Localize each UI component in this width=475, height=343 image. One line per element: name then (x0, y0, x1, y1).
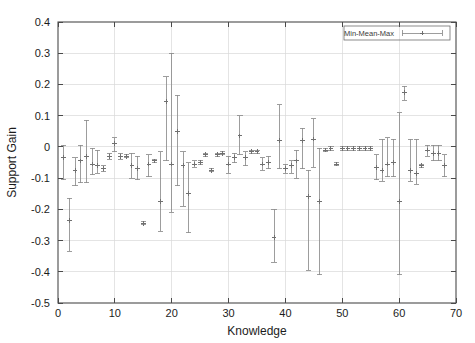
data-point-errorbar (118, 153, 123, 159)
data-point-errorbar (209, 168, 214, 173)
data-point-errorbar (84, 120, 89, 182)
support-gain-scatter-chart: 010203040506070 0.40.30.20.10-0.1-0.2-0.… (0, 0, 475, 343)
y-tick-labels: 0.40.30.20.10-0.1-0.2-0.3-0.4-0.5 (31, 16, 50, 309)
legend-label: Min-Mean-Max (344, 29, 394, 38)
plot-border (58, 22, 456, 303)
legend: Min-Mean-Max (344, 26, 450, 40)
x-tick-label: 0 (55, 307, 61, 319)
y-tick-label: 0.3 (35, 47, 50, 59)
data-point-errorbar (294, 150, 299, 178)
data-point-errorbar (391, 139, 396, 176)
data-point-errorbar (90, 148, 95, 175)
data-point-errorbar (397, 113, 402, 275)
data-point-errorbar (254, 149, 259, 154)
data-point-errorbar (442, 155, 447, 177)
data-point-errorbar (289, 161, 294, 173)
data-point-errorbar (67, 198, 72, 251)
data-point-errorbar (129, 153, 134, 178)
axis-ticks (58, 22, 456, 303)
data-point-errorbar (317, 148, 322, 274)
grid-lines (58, 22, 456, 303)
x-tick-label: 30 (222, 307, 234, 319)
data-point-errorbar (78, 145, 83, 182)
data-point-errorbar (124, 154, 129, 159)
data-point-errorbar (408, 139, 413, 181)
data-point-errorbar (95, 150, 100, 173)
y-tick-label: -0.1 (31, 172, 50, 184)
data-point-errorbar (357, 146, 362, 151)
data-point-errorbar (237, 116, 242, 155)
y-tick-label: 0.1 (35, 110, 50, 122)
data-point-errorbar (175, 95, 180, 186)
data-point-errorbar (180, 152, 185, 207)
data-point-errorbar (72, 158, 77, 186)
data-point-errorbar (226, 156, 231, 173)
x-tick-label: 40 (279, 307, 291, 319)
data-point-errorbar (192, 161, 197, 167)
data-point-errorbar (249, 149, 254, 154)
data-point-errorbar (198, 160, 203, 165)
data-series-min-mean-max (61, 53, 447, 275)
x-axis-title: Knowledge (227, 324, 287, 338)
data-point-errorbar (283, 164, 288, 173)
data-point-errorbar (362, 146, 367, 151)
data-point-errorbar (419, 163, 424, 168)
data-point-errorbar (203, 152, 208, 157)
data-point-errorbar (101, 166, 106, 172)
data-point-errorbar (311, 119, 316, 167)
data-point-errorbar (345, 146, 350, 151)
data-point-errorbar (328, 146, 333, 151)
data-point-errorbar (107, 153, 112, 159)
data-point-errorbar (186, 163, 191, 233)
data-point-errorbar (300, 128, 305, 169)
y-tick-label: -0.5 (31, 297, 50, 309)
data-point-errorbar (260, 158, 265, 170)
data-point-errorbar (323, 148, 328, 153)
y-axis-title: Support Gain (5, 127, 19, 198)
data-point-errorbar (169, 53, 174, 212)
data-point-errorbar (414, 139, 419, 184)
data-point-errorbar (158, 152, 163, 232)
x-tick-label: 10 (109, 307, 121, 319)
data-point-errorbar (271, 209, 276, 262)
data-point-errorbar (402, 86, 407, 100)
x-tick-label: 20 (166, 307, 178, 319)
y-tick-label: -0.2 (31, 203, 50, 215)
y-tick-label: -0.4 (31, 266, 50, 278)
data-point-errorbar (306, 170, 311, 270)
data-point-errorbar (351, 146, 356, 151)
data-point-errorbar (61, 145, 66, 179)
data-point-errorbar (163, 77, 168, 161)
y-tick-label: 0.4 (35, 16, 50, 28)
data-point-errorbar (334, 162, 339, 167)
data-point-errorbar (220, 151, 225, 156)
x-tick-label: 50 (336, 307, 348, 319)
x-tick-labels: 010203040506070 (55, 307, 462, 319)
plot-frame (58, 22, 456, 303)
data-point-errorbar (379, 139, 384, 181)
data-point-errorbar (146, 155, 151, 177)
data-point-errorbar (436, 145, 441, 161)
data-point-errorbar (152, 159, 157, 164)
y-tick-label: -0.3 (31, 235, 50, 247)
data-point-errorbar (232, 153, 237, 162)
data-point-errorbar (112, 138, 117, 152)
data-point-errorbar (277, 105, 282, 169)
data-point-errorbar (243, 152, 248, 166)
x-tick-label: 70 (450, 307, 462, 319)
data-point-errorbar (340, 146, 345, 151)
data-point-errorbar (266, 156, 271, 168)
data-point-errorbar (141, 221, 146, 226)
y-tick-label: 0.2 (35, 78, 50, 90)
data-point-errorbar (385, 138, 390, 177)
x-tick-label: 60 (393, 307, 405, 319)
data-point-errorbar (215, 152, 220, 157)
chart-container: 010203040506070 0.40.30.20.10-0.1-0.2-0.… (0, 0, 475, 343)
data-point-errorbar (135, 156, 140, 179)
data-point-errorbar (374, 155, 379, 180)
y-tick-label: 0 (44, 141, 50, 153)
data-point-errorbar (431, 145, 436, 161)
data-point-errorbar (368, 146, 373, 151)
